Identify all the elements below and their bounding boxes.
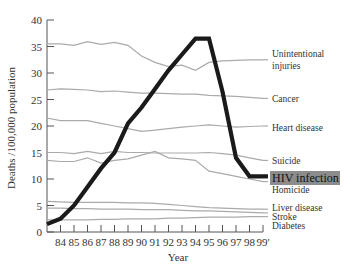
- x-tick-label: 93: [177, 236, 189, 248]
- x-tick-label: 96: [217, 236, 229, 248]
- x-axis-title: Year: [168, 251, 189, 263]
- label-diabetes: Diabetes: [272, 221, 306, 231]
- y-tick-label: 20: [31, 120, 43, 132]
- series-line-liver-disease: [47, 201, 263, 209]
- series-line-suicide: [47, 151, 263, 160]
- y-tick-label: 40: [31, 14, 43, 26]
- x-tick-label: 85: [69, 236, 81, 248]
- y-tick-label: 25: [31, 94, 43, 106]
- series-labels: Unintentional injuries Cancer Heart dise…: [270, 49, 340, 231]
- x-tick-label: 87: [96, 236, 108, 248]
- x-tick-label: 98: [244, 236, 256, 248]
- y-tick-label: 5: [37, 200, 43, 212]
- series-line-homicide: [47, 151, 263, 181]
- x-tick-label: 95: [204, 236, 216, 248]
- series-line-hiv-infection: [47, 39, 263, 225]
- series-line-unintentional-injuries: [47, 42, 263, 71]
- line-chart: 0510152025303540848586878889909192939495…: [0, 0, 355, 279]
- x-tick-label: 91: [150, 236, 161, 248]
- y-tick-label: 35: [31, 41, 43, 53]
- label-homicide: Homicide: [272, 185, 309, 195]
- x-tick-label: 99': [257, 236, 270, 248]
- label-heart-disease: Heart disease: [272, 123, 323, 133]
- y-tick-label: 10: [31, 173, 43, 185]
- x-tick-label: 86: [82, 236, 94, 248]
- x-tick-label: 92: [163, 236, 174, 248]
- series-lines: [47, 39, 268, 225]
- label-unintentional-injuries-1: Unintentional: [272, 49, 325, 59]
- y-tick-label: 0: [37, 226, 43, 238]
- x-tick-label: 90: [136, 236, 148, 248]
- label-cancer: Cancer: [272, 94, 300, 104]
- label-hiv-infection: HIV infection: [272, 171, 339, 185]
- x-tick-label: 94: [190, 236, 202, 248]
- series-line-diabetes: [47, 217, 263, 220]
- x-tick-label: 97: [231, 236, 243, 248]
- x-tick-label: 84: [55, 236, 67, 248]
- x-tick-label: 89: [123, 236, 135, 248]
- x-tick-label: 88: [109, 236, 121, 248]
- label-unintentional-injuries-2: injuries: [272, 61, 301, 71]
- label-suicide: Suicide: [272, 156, 301, 166]
- y-tick-label: 30: [31, 67, 43, 79]
- y-tick-label: 15: [31, 147, 43, 159]
- y-axis-title: Deaths /100,000 population: [5, 67, 17, 189]
